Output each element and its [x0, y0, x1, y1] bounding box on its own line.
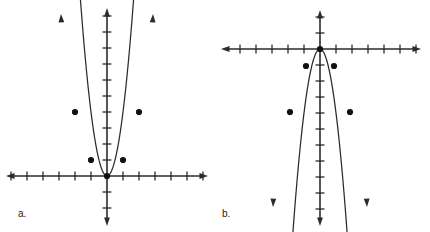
curve-end-arrow-right-icon [150, 14, 156, 23]
figure-panel-b: b. [215, 0, 430, 232]
x-axis-left-arrow-icon [6, 173, 15, 179]
y-axis-down-arrow-icon [104, 218, 110, 227]
y-axis-up-arrow-icon [104, 8, 110, 17]
x-axis-left-arrow-icon [221, 46, 230, 52]
data-point [136, 109, 142, 115]
data-point [303, 63, 309, 69]
panel-label-a: a. [18, 209, 26, 219]
curve-end-arrow-right-icon [364, 198, 370, 207]
x-axis-right-arrow-icon [413, 46, 422, 52]
data-point [120, 157, 126, 163]
graph-b-parabola-opens-down [215, 0, 430, 232]
x-axis-right-arrow-icon [200, 173, 209, 179]
data-point [88, 157, 94, 163]
axes-group [6, 8, 208, 226]
data-point [317, 46, 323, 52]
y-axis-down-arrow-icon [317, 218, 323, 227]
curve-end-arrow-left-icon [270, 198, 276, 207]
curve-end-arrow-left-icon [58, 14, 64, 23]
panel-label-b: b. [222, 209, 230, 219]
data-point [347, 109, 353, 115]
data-point [287, 109, 293, 115]
figure-panel-a: a. [0, 0, 215, 232]
data-point [104, 173, 110, 179]
data-point [331, 63, 337, 69]
data-point [72, 109, 78, 115]
graph-a-parabola-opens-up [0, 0, 215, 232]
axes-group [221, 10, 421, 226]
